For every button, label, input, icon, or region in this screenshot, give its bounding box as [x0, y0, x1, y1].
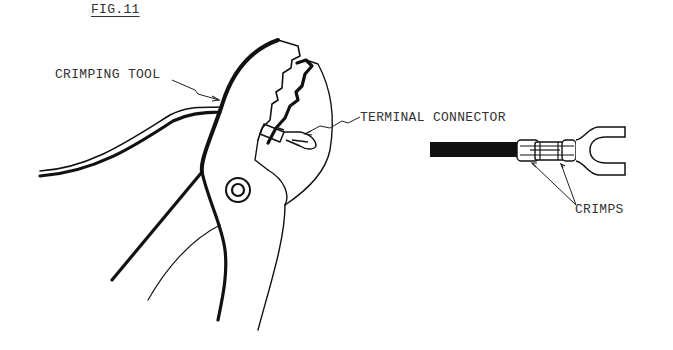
pivot-screw-icon — [226, 178, 250, 202]
crimped-terminal-detail — [430, 127, 625, 175]
crimping-tool-label: CRIMPING TOOL — [55, 68, 160, 81]
crimping-tool-leader — [172, 80, 219, 101]
wire — [430, 142, 520, 157]
crimps-label: CRIMPS — [575, 203, 624, 216]
tool-cable — [40, 107, 220, 176]
crimping-diagram-drawing — [0, 0, 673, 350]
figure-title: FIG.11 — [91, 3, 140, 16]
terminal-connector-label: TERMINAL CONNECTOR — [360, 111, 506, 124]
figure-11-crimping-diagram: FIG.11 CRIMPING TOOL TERMINAL CONNECTOR … — [0, 0, 673, 350]
crimps-leaders — [532, 163, 576, 205]
crimping-tool — [112, 40, 332, 330]
terminal-connector-in-jaws — [260, 124, 316, 149]
